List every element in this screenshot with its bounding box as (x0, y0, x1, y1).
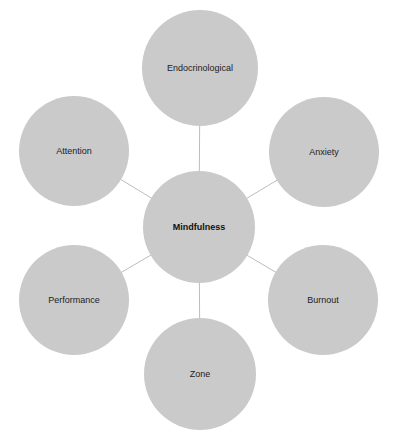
node-zone: Zone (144, 318, 256, 430)
node-mindfulness: Mindfulness (143, 171, 255, 283)
node-label: Endocrinological (167, 63, 233, 73)
node-label: Attention (56, 146, 92, 156)
node-label: Performance (48, 295, 100, 305)
node-performance: Performance (19, 245, 129, 355)
node-label: Anxiety (309, 147, 339, 157)
node-label: Burnout (307, 295, 339, 305)
node-label: Zone (190, 369, 211, 379)
node-anxiety: Anxiety (269, 97, 379, 207)
center-label: Mindfulness (173, 222, 226, 232)
node-burnout: Burnout (268, 245, 378, 355)
node-attention: Attention (19, 96, 129, 206)
node-endocrinological: Endocrinological (142, 10, 258, 126)
